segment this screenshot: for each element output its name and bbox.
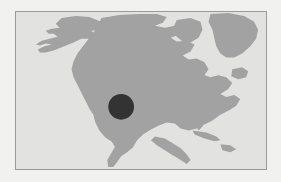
region-highlight-marker[interactable] [108,94,134,120]
map-graphic[interactable] [16,12,266,169]
map-figure [0,0,281,182]
map-panel[interactable] [15,11,267,170]
